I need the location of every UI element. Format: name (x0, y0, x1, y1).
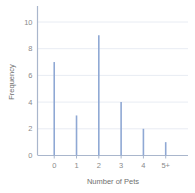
x-tick-label: 5+ (161, 161, 170, 170)
pets-frequency-chart: 0246810 012345+ Number of Pets Frequency (0, 0, 195, 193)
y-tick-label: 8 (28, 44, 32, 53)
chart-canvas: 0246810 012345+ Number of Pets Frequency (0, 0, 195, 193)
x-tick-label: 2 (97, 161, 101, 170)
y-tick-label: 4 (28, 98, 32, 107)
y-axis-title: Frequency (7, 64, 16, 100)
y-tick-label: 6 (28, 71, 32, 80)
x-tick-label: 1 (74, 161, 78, 170)
y-tick-label: 0 (28, 151, 32, 160)
x-axis-title: Number of Pets (87, 177, 139, 186)
y-tick-label: 10 (24, 18, 32, 27)
x-tick-label: 4 (141, 161, 145, 170)
x-tick-label: 0 (52, 161, 56, 170)
y-tick-label: 2 (28, 124, 32, 133)
x-tick-label: 3 (119, 161, 123, 170)
